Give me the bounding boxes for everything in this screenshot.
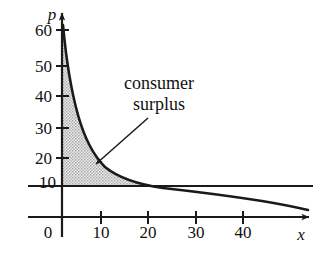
annotation-line-2: surplus [133,94,185,114]
x-tick-label-20: 20 [140,223,157,242]
x-axis-label-x: x [296,225,305,244]
consumer-surplus-shaded-region [63,27,243,210]
consumer-surplus-annotation: consumer surplus [96,73,194,164]
x-tick-label-30: 30 [188,223,205,242]
y-tick-label-50: 50 [35,57,52,76]
y-tick-label-40: 40 [35,87,52,106]
y-tick-label-30: 30 [35,119,52,138]
annotation-leader-arrow [96,118,148,164]
x-tick-label-40: 40 [235,223,252,242]
y-tick-label-10: 10 [39,173,56,192]
x-axis [28,211,309,224]
annotation-line-1: consumer [124,73,194,93]
consumer-surplus-figure: 60 50 40 30 20 10 10 20 30 40 0 p x cons… [0,0,318,263]
origin-label-zero: 0 [44,223,53,242]
y-axis-label-p: p [47,5,57,24]
y-tick-label-20: 20 [35,149,52,168]
chart-canvas: 60 50 40 30 20 10 10 20 30 40 0 p x cons… [0,0,318,263]
x-tick-label-10: 10 [93,223,110,242]
